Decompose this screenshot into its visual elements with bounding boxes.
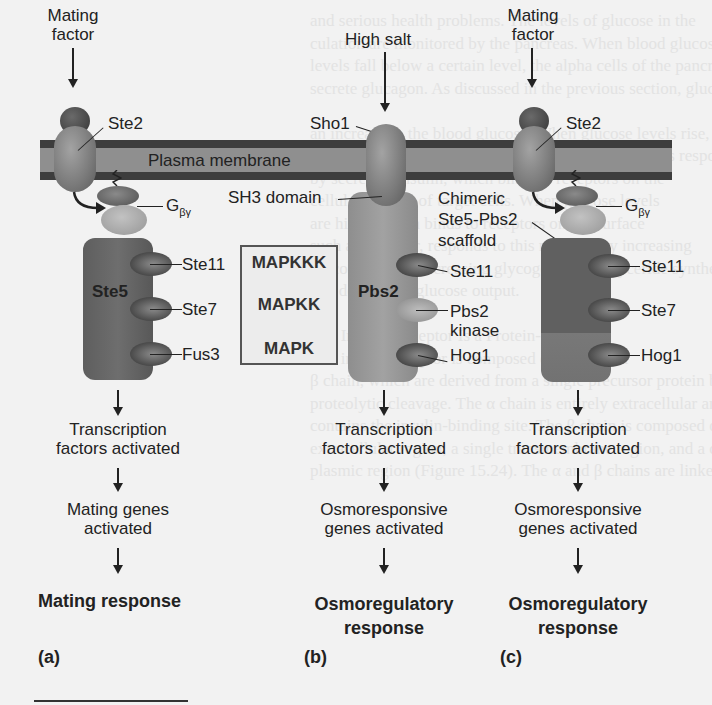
kinase-label-fus3: Fus3 <box>182 345 220 364</box>
caption-divider <box>34 700 188 702</box>
panel-label: (c) <box>500 648 522 667</box>
g-gamma-subunit <box>560 205 606 235</box>
arrow-down-icon <box>531 48 533 86</box>
plasma-membrane-label: Plasma membrane <box>148 151 291 170</box>
kinase-label-ste7: Ste7 <box>641 301 676 320</box>
legend-mapk: MAPK <box>242 339 336 359</box>
legend-mapkkk: MAPKKK <box>242 253 336 273</box>
kinase-label-kinase: kinase <box>450 321 499 340</box>
leader-line <box>608 266 640 267</box>
step1-text: Transcription factors activated <box>30 420 206 458</box>
leader-line <box>608 310 640 311</box>
stimulus-label: Mating factor <box>498 6 568 44</box>
leader-line <box>596 206 622 207</box>
kinase-label-pbs2: Pbs2 <box>450 302 489 321</box>
arrow-down-icon <box>383 468 385 490</box>
arrow-down-icon <box>383 390 385 414</box>
leader-line <box>608 355 640 356</box>
plasma-membrane-core <box>40 148 672 172</box>
arrow-down-icon <box>577 548 579 572</box>
chimeric-scaffold-label: Chimeric Ste5-Pbs2 scaffold <box>438 188 517 251</box>
receptor-label: Ste2 <box>108 114 143 133</box>
panel-label: (a) <box>38 648 60 667</box>
step1-text: Transcription factors activated <box>296 420 472 458</box>
kinase-label-ste11: Ste11 <box>641 257 684 276</box>
kinase-label-ste11: Ste11 <box>450 262 493 281</box>
g-protein-label: Gβγ <box>166 196 191 217</box>
response-text: Osmoregulatory response <box>296 592 472 640</box>
receptor-label: Ste2 <box>566 114 601 133</box>
legend-mapkk: MAPKK <box>242 295 336 315</box>
kinase-label-hog1: Hog1 <box>450 346 491 365</box>
step2-text: Osmoresponsive genes activated <box>296 500 472 538</box>
arrow-down-icon <box>72 48 74 86</box>
g-gamma-subunit <box>101 205 147 235</box>
kinase-label-ste7: Ste7 <box>182 300 217 319</box>
arrow-down-icon <box>383 548 385 572</box>
g-beta-subunit <box>97 186 139 206</box>
leader-line <box>137 206 163 207</box>
receptor-label: Sho1 <box>310 114 350 133</box>
response-text: Osmoregulatory response <box>490 592 666 640</box>
arrow-down-icon <box>117 548 119 572</box>
stimulus-label: Mating factor <box>38 6 108 44</box>
kinase-label-hog1: Hog1 <box>641 346 682 365</box>
leader-line <box>150 309 182 310</box>
sh3-domain-label: SH3 domain <box>228 188 322 207</box>
arrow-down-icon <box>117 468 119 490</box>
response-text: Mating response <box>38 592 181 611</box>
g-beta-subunit <box>556 186 598 206</box>
arrow-down-icon <box>577 468 579 490</box>
arrow-down-icon <box>384 52 386 110</box>
scaffold-label: Ste5 <box>92 282 128 301</box>
stimulus-label: High salt <box>345 30 411 49</box>
panel-label: (b) <box>304 648 327 667</box>
ste2-receptor <box>54 126 96 192</box>
step1-text: Transcription factors activated <box>490 420 666 458</box>
g-protein-label: Gβγ <box>625 196 650 217</box>
scaffold-label: Pbs2 <box>358 282 399 301</box>
ste2-receptor <box>513 126 555 192</box>
step2-text: Osmoresponsive genes activated <box>490 500 666 538</box>
leader-line <box>416 310 448 311</box>
arrow-down-icon <box>577 390 579 414</box>
arrow-down-icon <box>117 390 119 414</box>
sho1-receptor <box>366 124 406 206</box>
mapk-legend-box: MAPKKK MAPKK MAPK <box>240 245 338 365</box>
kinase-label-ste11: Ste11 <box>182 255 225 274</box>
leader-line <box>150 354 182 355</box>
step2-text: Mating genes activated <box>30 500 206 538</box>
leader-line <box>150 264 182 265</box>
